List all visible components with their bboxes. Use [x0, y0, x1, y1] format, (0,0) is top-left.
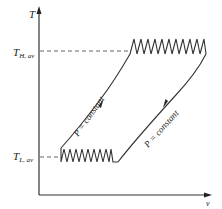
y-axis-arrow-icon — [37, 6, 42, 14]
t-v-diagram: T v TH, av TL, av P = constant P = const… — [0, 0, 222, 209]
left-isobar-label: P = constant — [71, 94, 107, 139]
y-axis-label: T — [29, 8, 36, 20]
right-isobar-line — [118, 54, 206, 162]
x-axis — [39, 193, 212, 198]
t-high-subscript: H, av — [18, 52, 35, 60]
x-axis-arrow-icon — [204, 193, 212, 198]
bottom-zigzag — [61, 148, 118, 162]
x-axis-label: v — [206, 199, 210, 208]
right-isobar-label: P = constant — [141, 108, 180, 150]
t-low-label: TL, av — [13, 150, 34, 164]
svg-text:TL, av: TL, av — [13, 150, 34, 164]
y-axis — [37, 6, 42, 195]
svg-text:TH, av: TH, av — [13, 46, 35, 60]
t-high-label: TH, av — [13, 46, 35, 60]
t-low-subscript: L, av — [18, 156, 34, 164]
top-zigzag — [130, 39, 206, 54]
